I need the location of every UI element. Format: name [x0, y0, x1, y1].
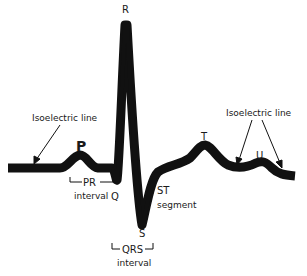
- label-qrs: QRS: [122, 244, 143, 255]
- label-t-wave: T: [201, 131, 207, 142]
- label-q-wave: Q: [111, 191, 119, 202]
- label-st: ST: [157, 185, 169, 196]
- ecg-diagram: [0, 0, 307, 276]
- ecg-trace: [8, 25, 295, 225]
- label-isoelectric-left: Isoelectric line: [32, 113, 97, 123]
- label-r-wave: R: [122, 4, 129, 15]
- arrow-isoelectric-left: [34, 125, 60, 164]
- label-pr-interval: interval: [74, 191, 108, 201]
- arrow-isoelectric-right-1: [236, 120, 252, 165]
- label-p-wave: P: [76, 139, 86, 153]
- label-isoelectric-right: Isoelectric line: [226, 108, 291, 118]
- label-st-segment: segment: [157, 200, 196, 210]
- label-pr: PR: [83, 177, 96, 188]
- label-u-wave: U: [256, 150, 263, 161]
- label-s-wave: S: [139, 228, 145, 239]
- label-qrs-interval: interval: [117, 258, 151, 268]
